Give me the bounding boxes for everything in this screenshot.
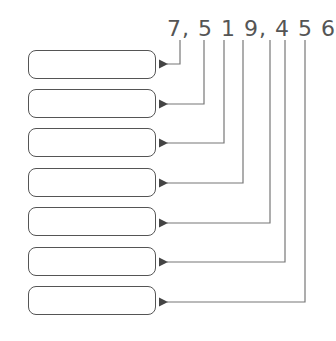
arrow-digit-7 [167, 40, 180, 64]
arrow-digit-9 [167, 40, 243, 183]
arrow-digit-4 [167, 40, 270, 223]
arrow-digit-5b [167, 40, 285, 262]
arrow-digit-5 [167, 40, 204, 104]
arrow-digit-1 [167, 40, 224, 143]
arrow-digit-6 [167, 40, 305, 302]
